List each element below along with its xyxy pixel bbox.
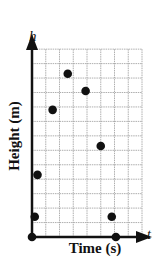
data-point	[28, 233, 37, 242]
chart-grid	[32, 49, 142, 237]
data-point	[107, 212, 116, 221]
x-axis-label: Time (s)	[50, 240, 140, 257]
data-point	[63, 69, 72, 78]
chart-axes	[26, 34, 152, 243]
y-axis-label: Height (m)	[4, 86, 24, 186]
data-point	[48, 106, 57, 115]
x-axis-symbol: t	[147, 227, 151, 243]
data-point	[81, 87, 90, 96]
data-point	[96, 142, 105, 151]
data-points	[28, 69, 120, 241]
y-axis-symbol: h	[29, 28, 37, 45]
scatter-chart	[0, 0, 167, 266]
data-point	[33, 171, 42, 180]
data-point	[30, 212, 39, 221]
